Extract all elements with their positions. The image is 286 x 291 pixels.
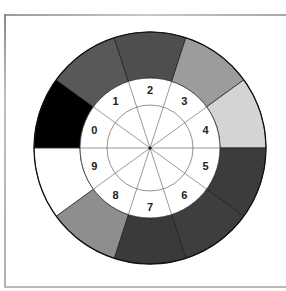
segment-label-8: 8 <box>113 189 119 201</box>
segment-label-9: 9 <box>91 160 97 172</box>
segment-label-4: 4 <box>203 124 210 136</box>
segment-label-3: 3 <box>181 95 187 107</box>
segment-label-2: 2 <box>147 84 153 96</box>
segment-label-5: 5 <box>203 160 209 172</box>
segment-label-0: 0 <box>91 124 97 136</box>
segment-label-1: 1 <box>113 95 119 107</box>
segment-label-6: 6 <box>181 189 187 201</box>
center-point <box>148 146 151 149</box>
color-wheel: 0123456789 <box>0 0 286 291</box>
segment-label-7: 7 <box>147 201 153 213</box>
